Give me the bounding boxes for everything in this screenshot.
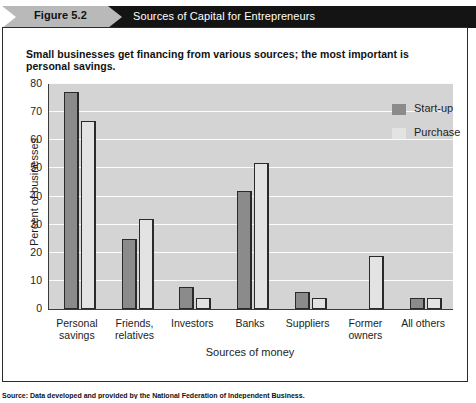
bar-purchase (139, 219, 154, 309)
bar-startup (295, 292, 310, 309)
bar-face (369, 256, 384, 309)
bar-startup (237, 191, 252, 309)
bar-face (254, 163, 269, 309)
x-axis-label: Former owners (333, 317, 399, 341)
x-axis-label: Banks (217, 317, 283, 329)
bar-startup (410, 298, 425, 309)
bar-purchase (81, 121, 96, 309)
y-axis-tick-label: 10 (2, 274, 42, 286)
bar-face (179, 287, 194, 310)
bar-face (64, 92, 79, 309)
figure-subtitle: Small businesses get financing from vari… (26, 48, 456, 72)
bar-face (139, 219, 154, 309)
y-axis-tick-label: 0 (2, 302, 42, 314)
bar-face (410, 298, 425, 309)
y-axis-tick-label: 70 (2, 105, 42, 117)
figure-header: Figure 5.2 Sources of Capital for Entrep… (0, 6, 476, 28)
gridline (49, 83, 453, 84)
gridline (49, 139, 453, 140)
bar-face (237, 191, 252, 309)
bar-purchase (196, 298, 211, 309)
bar-startup (64, 92, 79, 309)
y-axis-tick-label: 80 (2, 77, 42, 89)
x-axis-title: Sources of money (48, 346, 452, 358)
bar-face (312, 298, 327, 309)
x-axis-label: Investors (159, 317, 225, 329)
x-axis-label: Personal savings (44, 317, 110, 341)
legend-swatch-icon (392, 128, 406, 139)
figure-title: Sources of Capital for Entrepreneurs (133, 10, 315, 22)
legend-label: Purchase (414, 126, 460, 138)
x-axis-label: All others (390, 317, 456, 329)
y-axis-tick-label: 50 (2, 161, 42, 173)
bar-startup (179, 287, 194, 310)
figure-panel: Figure 5.2 Sources of Capital for Entrep… (0, 0, 476, 403)
bar-purchase (369, 256, 384, 309)
legend-label: Start-up (414, 102, 453, 114)
x-axis-label: Suppliers (275, 317, 341, 329)
bar-face (81, 121, 96, 309)
bar-purchase (254, 163, 269, 309)
y-axis-tick-label: 20 (2, 246, 42, 258)
x-axis-label: Friends, relatives (102, 317, 168, 341)
chart-area: Percent of businesses 01020304050607080 … (48, 84, 452, 309)
bar-purchase (312, 298, 327, 309)
plot-region (48, 84, 453, 310)
legend-swatch-icon (392, 104, 406, 115)
bar-purchase (427, 298, 442, 309)
gridline (49, 167, 453, 168)
y-axis-tick-label: 40 (2, 190, 42, 202)
bar-startup (122, 239, 137, 309)
bar-face (196, 298, 211, 309)
bar-face (427, 298, 442, 309)
figure-number: Figure 5.2 (34, 9, 87, 21)
source-note: Source: Data developed and provided by t… (2, 392, 472, 399)
y-axis-tick-label: 30 (2, 218, 42, 230)
bar-face (295, 292, 310, 309)
bar-face (122, 239, 137, 309)
y-axis-tick-label: 60 (2, 133, 42, 145)
